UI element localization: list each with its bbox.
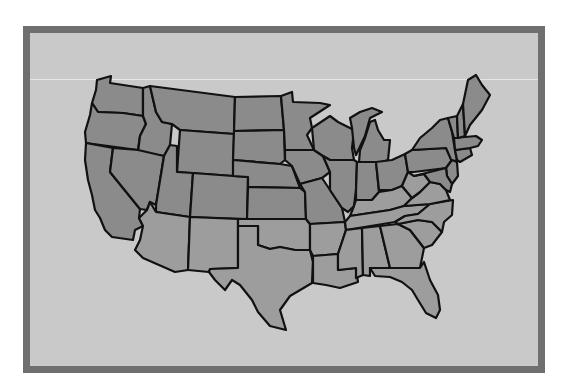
state-florida	[370, 262, 440, 318]
state-new-mexico	[188, 217, 238, 272]
state-kansas	[247, 187, 306, 219]
state-colorado	[190, 173, 248, 219]
state-wisconsin	[312, 116, 354, 160]
state-washington	[92, 76, 143, 116]
state-south-dakota	[233, 130, 285, 164]
state-maine	[463, 75, 490, 136]
state-north-dakota	[234, 96, 284, 131]
state-wyoming	[177, 130, 234, 176]
us-states-map	[0, 0, 567, 390]
